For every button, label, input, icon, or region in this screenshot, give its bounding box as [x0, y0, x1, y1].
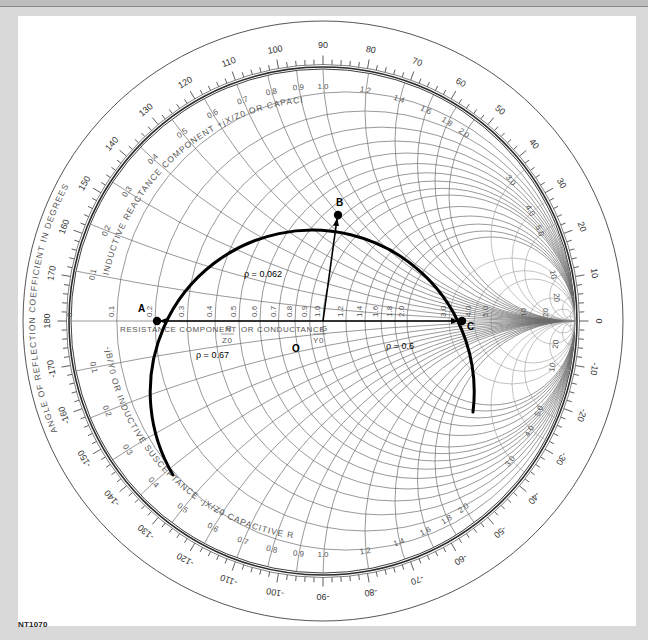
minor-tick	[443, 547, 445, 551]
top-border	[0, 0, 648, 7]
angle-label: 20	[576, 220, 589, 233]
conductance-title: OR CONDUCTANCE	[241, 325, 325, 334]
minor-tick	[536, 175, 540, 178]
minor-tick	[549, 441, 553, 443]
resistance-label: 1.2	[336, 305, 345, 317]
minor-tick	[69, 258, 74, 259]
minor-tick	[92, 198, 96, 200]
resistance-fraction-numerator: R	[226, 324, 232, 333]
angle-label: -10	[588, 362, 600, 377]
minor-tick	[578, 294, 583, 295]
angle-label: 120	[176, 74, 194, 90]
angle-label: 170	[45, 265, 57, 282]
angle-label: 80	[365, 44, 377, 56]
reactance-label-upper: 1.4	[392, 93, 406, 105]
minor-tick	[541, 457, 545, 460]
resistance-label: 1.6	[371, 305, 380, 317]
reactance-label-lower: 2.0	[456, 501, 471, 515]
minor-tick	[251, 70, 252, 75]
angle-label: -30	[554, 451, 569, 467]
reactance-label-upper: 20	[552, 293, 562, 303]
major-tick	[451, 543, 456, 551]
minor-tick	[208, 552, 210, 556]
minor-tick	[148, 512, 151, 516]
reactance-arc	[18, 16, 636, 321]
major-tick	[232, 562, 235, 570]
minor-tick	[549, 198, 553, 200]
reactance-arc	[323, 321, 636, 626]
reactance-label-upper: 0.8	[265, 86, 278, 97]
reactance-label-lower: 1.2	[359, 546, 372, 557]
conductance-fraction-numerator: G	[321, 324, 328, 333]
minor-tick	[572, 258, 577, 259]
major-tick	[368, 574, 370, 583]
minor-tick	[572, 383, 577, 384]
minor-tick	[169, 109, 172, 113]
minor-tick	[64, 357, 69, 358]
resistance-label: 5.0	[481, 305, 490, 317]
angle-label: -60	[453, 552, 469, 567]
minor-tick	[242, 72, 244, 77]
minor-tick	[184, 539, 187, 543]
zero-label: 0	[65, 312, 74, 317]
resistance-label: 0.8	[285, 305, 294, 317]
minor-tick	[208, 86, 210, 90]
angle-label: -20	[575, 407, 589, 423]
minor-tick	[514, 146, 518, 149]
reactance-label-lower: 1.0	[317, 550, 329, 559]
minor-tick	[69, 383, 74, 384]
reactance-label-upper: 0.6	[206, 107, 221, 120]
chart-sheet: 0102030405060708090100110120130140150160…	[18, 16, 636, 626]
major-tick	[62, 275, 71, 277]
minor-tick	[81, 223, 86, 225]
minor-tick	[531, 167, 535, 170]
major-tick	[152, 118, 158, 125]
minor-tick	[84, 215, 89, 217]
angle-label: 0	[594, 318, 604, 323]
resistance-label: 0.1	[107, 305, 116, 317]
reactance-label-upper: 0.4	[146, 152, 161, 167]
minor-tick	[63, 348, 68, 349]
minor-tick	[177, 534, 180, 538]
minor-tick	[525, 160, 529, 163]
angle-label: -130	[136, 523, 156, 542]
minor-tick	[162, 115, 165, 119]
reactance-label-lower: 20	[551, 339, 561, 349]
minor-tick	[376, 572, 377, 577]
angle-label: 50	[493, 103, 507, 117]
minor-tick	[557, 425, 562, 427]
reactance-arc	[449, 321, 636, 573]
minor-tick	[514, 493, 518, 496]
reactance-label-upper: 0.2	[100, 223, 113, 237]
resistance-axis-title: RESISTANCE COMPONENT	[120, 325, 237, 334]
minor-tick	[359, 62, 360, 67]
reactance-arc	[18, 16, 636, 321]
angle-label: -100	[265, 586, 284, 599]
point-label-C: C	[467, 321, 474, 332]
minor-tick	[129, 146, 133, 149]
minor-tick	[495, 512, 498, 516]
major-tick	[190, 543, 195, 551]
minor-tick	[554, 433, 558, 435]
minor-tick	[578, 348, 583, 349]
minor-tick	[402, 72, 404, 77]
minor-tick	[148, 127, 151, 131]
angle-label: 130	[137, 101, 155, 118]
major-tick	[488, 517, 494, 524]
reactance-arc	[323, 16, 636, 321]
minor-tick	[359, 575, 360, 580]
minor-tick	[88, 433, 92, 435]
minor-tick	[74, 240, 79, 242]
major-tick	[152, 517, 158, 524]
angle-label: 100	[267, 43, 284, 55]
reactance-label-lower: 0.8	[265, 544, 278, 555]
minor-tick	[177, 104, 180, 108]
minor-tick	[72, 249, 77, 250]
minor-tick	[269, 65, 270, 70]
resistance-label: 1.8	[385, 305, 394, 317]
reactance-label-lower: 1.4	[392, 536, 406, 548]
resistance-label: 0.3	[177, 305, 186, 317]
reactance-label-lower: 1.6	[419, 525, 433, 538]
reactance-label-lower: 0.5	[175, 501, 190, 515]
resistance-label: 3.0	[439, 305, 448, 317]
